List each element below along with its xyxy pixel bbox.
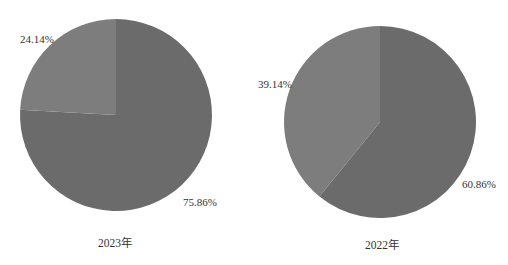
chart-title-2023: 2023年 xyxy=(98,234,132,250)
slice-label-2022-a: 60.86% xyxy=(462,178,496,190)
slice-label-2023-a: 75.86% xyxy=(183,196,217,208)
pie-chart-2022: 39.14% 60.86% 2022年 xyxy=(254,0,508,265)
slice-label-2023-b: 24.14% xyxy=(20,33,54,45)
pie-2022-graphic xyxy=(254,0,508,265)
chart-title-2022: 2022年 xyxy=(365,236,399,252)
pie-chart-2023: 24.14% 75.86% 2023年 xyxy=(0,0,254,265)
slice-label-2022-b: 39.14% xyxy=(258,78,292,90)
